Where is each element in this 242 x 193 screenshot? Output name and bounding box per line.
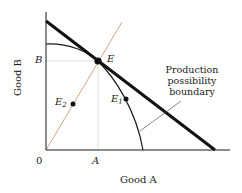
annotation-line-1: Production	[160, 64, 224, 75]
ray-from-origin	[46, 22, 122, 150]
point-label-e-text: E	[107, 53, 114, 64]
annotation-line-3: boundary	[160, 86, 224, 97]
point-e1	[124, 97, 129, 102]
point-e	[94, 57, 101, 64]
point-label-e1-sub: 1	[118, 98, 122, 106]
annotation-ppb: Production possibility boundary	[160, 64, 224, 97]
x-axis-title: Good A	[120, 174, 157, 185]
point-e2	[71, 102, 76, 107]
tick-label-b: B	[35, 54, 42, 65]
y-axis-title: Good B	[12, 58, 23, 98]
point-label-e2-sub: 2	[62, 101, 66, 109]
tick-label-a: A	[92, 155, 99, 166]
point-label-e: E	[107, 53, 114, 64]
origin-label: 0	[36, 155, 42, 166]
point-label-e1: E1	[111, 93, 123, 106]
annotation-leader-line	[140, 101, 181, 131]
annotation-line-2: possibility	[160, 75, 224, 86]
point-label-e2: E2	[55, 96, 67, 109]
